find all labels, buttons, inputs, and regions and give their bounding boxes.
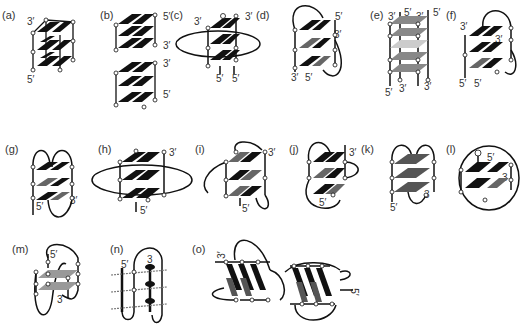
panel-h: (h) 3′ 5′ — [90, 140, 190, 240]
quadruplex-f — [445, 0, 523, 100]
panel-l: (l) 5′ 3 — [445, 140, 523, 240]
panel-d: (d) 5′ 3′ 3′ 5′ — [255, 0, 350, 100]
quadruplex-o — [190, 230, 390, 334]
quadruplex-c — [168, 0, 258, 100]
quadruplex-d — [255, 0, 350, 100]
panel-e: (e) 3′ 5′ 3′ 5′ 5′ 3′ 3′ — [340, 0, 440, 100]
panel-j: (j) 3′ 5′ — [285, 140, 365, 240]
quadruplex-a — [0, 0, 80, 100]
panel-c: (c) 3′ 3′ 5′ 5′ — [168, 0, 258, 100]
panel-f: (f) 3′ 3′ 5′ 5′ — [445, 0, 523, 100]
panel-a: (a) 3′ 5′ — [0, 0, 80, 100]
quadruplex-b — [92, 0, 172, 115]
panel-o: (o) 3′ 5′ — [190, 230, 390, 334]
quadruplex-h — [90, 140, 190, 240]
quadruplex-l — [445, 140, 523, 240]
quadruplex-n — [105, 240, 185, 334]
quadruplex-g — [0, 140, 80, 240]
panel-m: (m) 5′ 3 — [0, 240, 85, 334]
panel-n: (n) 5′ 3 — [105, 240, 185, 334]
quadruplex-i — [190, 140, 275, 240]
quadruplex-k — [360, 140, 435, 240]
quadruplex-m — [0, 240, 85, 334]
quadruplex-e — [340, 0, 440, 100]
panel-i: (i) 3′ 5′ — [190, 140, 275, 240]
panel-b: (b) 5′ 3′ 3′ 5′ — [92, 0, 172, 115]
panel-g: (g) 3′ 5′ — [0, 140, 80, 240]
quadruplex-j — [285, 140, 365, 240]
panel-k: (k) 5′ 3 — [360, 140, 435, 240]
